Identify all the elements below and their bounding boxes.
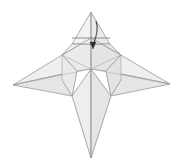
- top-flap-left-facet: [72, 12, 91, 44]
- top-flap-right-facet: [91, 12, 110, 44]
- origami-figure: Origami folding step diagram: [0, 0, 182, 168]
- origami-diagram-canvas: Origami folding step diagram: [0, 0, 182, 168]
